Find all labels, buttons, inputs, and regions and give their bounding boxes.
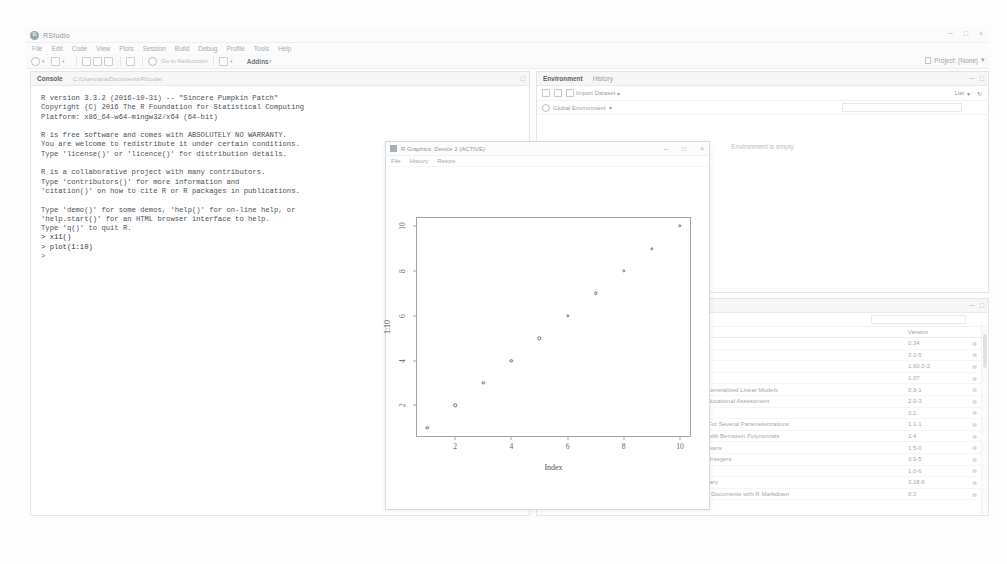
new-file-caret-icon[interactable]: ▾ [42, 58, 45, 64]
package-version: 1.1-1 [908, 421, 960, 427]
x11-window-title: R Graphics: Device 2 (ACTIVE) [401, 146, 485, 152]
data-point [650, 247, 653, 250]
window-controls[interactable]: ─ □ × [948, 30, 983, 37]
maximize-icon[interactable]: □ [964, 30, 968, 37]
environment-minimize-icon[interactable]: ─ [970, 75, 975, 82]
package-version: 1.5-0 [908, 445, 960, 451]
load-workspace-icon[interactable] [542, 89, 550, 97]
minimize-icon[interactable]: ─ [948, 30, 953, 37]
x11-menu-history[interactable]: History [410, 158, 429, 164]
x-axis-tick [567, 436, 568, 440]
packages-minimize-icon[interactable]: ─ [970, 302, 975, 309]
menu-item-edit[interactable]: Edit [51, 45, 62, 52]
y-axis-tick-label: 8 [398, 269, 407, 273]
x11-window-controls[interactable]: ─ □ × [664, 145, 704, 152]
x-axis-tick [623, 436, 624, 440]
workspace-panes-icon[interactable] [219, 57, 228, 66]
data-point [594, 292, 597, 295]
x-axis-tick [679, 436, 680, 440]
y-axis-tick-label: 10 [398, 222, 407, 230]
environment-list-view-button[interactable]: List ▾ ↻ [955, 90, 982, 97]
project-label: Project: (None) [934, 57, 978, 64]
globe-icon [542, 104, 550, 112]
menu-item-build[interactable]: Build [175, 45, 189, 52]
save-all-icon[interactable] [104, 57, 113, 66]
console-pane-actions: □ [521, 75, 525, 82]
environment-list-caret-icon: ▾ [967, 90, 970, 97]
import-dataset-button[interactable]: Import Dataset ▾ [566, 89, 620, 97]
console-maximize-icon[interactable]: □ [521, 75, 525, 82]
save-workspace-icon[interactable] [554, 89, 562, 97]
environment-scope-label: Global Environment [553, 105, 606, 111]
save-icon[interactable] [93, 57, 102, 66]
package-version: 1.0-6 [908, 468, 960, 474]
y-axis-title: 1:10 [383, 320, 392, 334]
toolbar-divider-1 [76, 57, 77, 66]
go-to-file-input[interactable]: Go to file/function [161, 58, 208, 64]
menu-item-plots[interactable]: Plots [119, 45, 133, 52]
close-icon[interactable]: × [979, 30, 983, 37]
x11-maximize-icon[interactable]: □ [682, 145, 686, 152]
addins-button[interactable]: Addins [247, 58, 269, 65]
tab-console[interactable]: Console [37, 75, 63, 82]
menu-item-debug[interactable]: Debug [198, 45, 217, 52]
addins-caret-icon[interactable]: ▾ [269, 58, 272, 64]
column-header-version[interactable]: Version [908, 329, 960, 335]
environment-pane-actions: ─ □ [970, 75, 984, 82]
x11-graphics-window[interactable]: R Graphics: Device 2 (ACTIVE) ─ □ × File… [385, 141, 710, 510]
menu-item-session[interactable]: Session [143, 45, 166, 52]
plot-canvas: Index 1:10 246810246810 [386, 167, 709, 509]
y-axis-tick [413, 226, 417, 227]
menu-item-view[interactable]: View [96, 45, 110, 52]
workspace-panes-caret-icon[interactable]: ▾ [230, 58, 233, 64]
packages-maximize-icon[interactable]: □ [980, 302, 984, 309]
menu-item-help[interactable]: Help [278, 45, 291, 52]
console-working-directory[interactable]: C:/Users/ana/Documents/R/code/ [73, 76, 162, 82]
project-selector[interactable]: Project: (None) ▾ [925, 56, 985, 64]
packages-pane-actions: ─ □ [970, 302, 984, 309]
app-title: RStudio [43, 32, 70, 39]
x11-menu-resize[interactable]: Resize [437, 158, 455, 164]
y-axis-tick [413, 315, 417, 316]
open-file-icon[interactable] [82, 57, 91, 66]
environment-search-input[interactable] [842, 103, 962, 112]
os-title-bar: RStudio ─ □ × [26, 28, 989, 43]
refresh-icon[interactable]: ↻ [977, 90, 982, 97]
x11-menu-file[interactable]: File [391, 158, 401, 164]
new-file-icon[interactable] [31, 57, 40, 66]
environment-toolbar: Import Dataset ▾ List ▾ ↻ [537, 86, 988, 101]
new-project-icon[interactable] [51, 57, 60, 66]
console-pane-header: Console C:/Users/ana/Documents/R/code/ □ [31, 72, 529, 86]
x11-title-bar: R Graphics: Device 2 (ACTIVE) ─ □ × [386, 142, 709, 156]
package-version: 0.3 [908, 491, 960, 497]
x11-minimize-icon[interactable]: ─ [664, 145, 669, 152]
data-point [566, 314, 569, 317]
x-axis-tick-label: 8 [622, 442, 626, 451]
package-version: 0.9-5 [908, 456, 960, 462]
x11-close-icon[interactable]: × [700, 145, 704, 152]
environment-maximize-icon[interactable]: □ [980, 75, 984, 82]
x-axis-tick-label: 6 [566, 442, 570, 451]
broom-icon[interactable] [624, 89, 632, 97]
menu-item-file[interactable]: File [32, 45, 42, 52]
environment-scope-selector[interactable]: Global Environment ▾ [537, 101, 988, 115]
tab-history[interactable]: History [593, 75, 613, 82]
data-point [510, 359, 513, 362]
new-project-caret-icon[interactable]: ▾ [62, 58, 65, 64]
print-icon[interactable] [126, 57, 135, 66]
packages-search-input[interactable] [871, 315, 966, 324]
go-to-file-search-icon[interactable] [148, 57, 157, 66]
tab-environment[interactable]: Environment [543, 75, 583, 82]
x-axis-tick-label: 4 [509, 442, 513, 451]
packages-scrollbar[interactable] [981, 324, 987, 514]
x-axis-title: Index [544, 463, 562, 472]
menu-item-profile[interactable]: Profile [226, 45, 244, 52]
packages-scrollbar-thumb[interactable] [983, 334, 987, 368]
rstudio-icon [30, 31, 39, 40]
package-version: 0.9-1 [908, 387, 960, 393]
package-version: 1.4 [908, 433, 960, 439]
y-axis-tick-label: 6 [398, 314, 407, 318]
menu-item-code[interactable]: Code [72, 45, 88, 52]
menu-item-tools[interactable]: Tools [254, 45, 269, 52]
package-version: 1.07 [908, 375, 960, 381]
